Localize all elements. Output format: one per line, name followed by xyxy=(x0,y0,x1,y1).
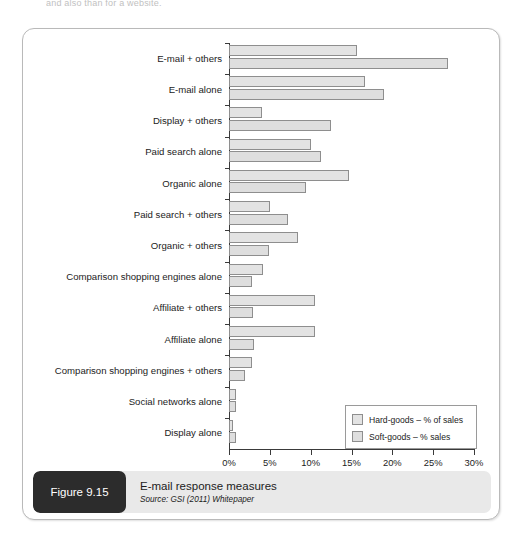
y-axis-tick xyxy=(225,74,230,75)
category-label: Display alone xyxy=(0,428,222,438)
bar xyxy=(229,339,254,350)
bar xyxy=(229,182,306,193)
category-label: E-mail + others xyxy=(0,54,222,64)
x-axis-tick xyxy=(311,449,312,455)
y-axis-tick xyxy=(225,293,230,294)
bar xyxy=(229,170,349,181)
category-label: Paid search + others xyxy=(0,210,222,220)
bar-group: Display + others xyxy=(229,105,474,136)
figure-page: and also than for a website. E-mail + ot… xyxy=(0,0,524,546)
figure-caption: Figure 9.15 E-mail response measures Sou… xyxy=(33,471,491,513)
category-label: Affiliate + others xyxy=(0,303,222,313)
bar xyxy=(229,295,315,306)
bar-group: Organic alone xyxy=(229,168,474,199)
bar xyxy=(229,58,448,69)
x-axis-tick xyxy=(474,449,475,455)
bar xyxy=(229,214,288,225)
legend-label-soft-goods: Soft-goods – % sales xyxy=(369,432,450,442)
bar-group: E-mail + others xyxy=(229,43,474,74)
y-axis-tick xyxy=(225,43,230,44)
caption-body: E-mail response measures Source: GSI (20… xyxy=(126,471,491,513)
bar xyxy=(229,432,236,443)
bar xyxy=(229,370,245,381)
category-label: Organic alone xyxy=(0,179,222,189)
category-label: Affiliate alone xyxy=(0,335,222,345)
bar xyxy=(229,264,263,275)
caption-source: Source: GSI (2011) Whitepaper xyxy=(140,495,491,504)
legend-swatch-soft-goods xyxy=(352,431,363,442)
bar-group: Paid search + others xyxy=(229,199,474,230)
category-label: Social networks alone xyxy=(0,397,222,407)
x-axis-tick xyxy=(392,449,393,455)
bar xyxy=(229,120,331,131)
legend-swatch-hard-goods xyxy=(352,414,363,425)
bar xyxy=(229,245,269,256)
legend-item-hard-goods: Hard-goods – % of sales xyxy=(352,411,470,428)
bar-group: Paid search alone xyxy=(229,137,474,168)
legend-item-soft-goods: Soft-goods – % sales xyxy=(352,428,470,445)
bar-group: Organic + others xyxy=(229,230,474,261)
y-axis-tick xyxy=(225,262,230,263)
bar-chart: E-mail + othersE-mail aloneDisplay + oth… xyxy=(23,29,501,459)
x-axis-tick-label: 5% xyxy=(263,457,277,468)
category-label: Display + others xyxy=(0,116,222,126)
x-axis-tick xyxy=(352,449,353,455)
category-label: Organic + others xyxy=(0,241,222,251)
category-label: Paid search alone xyxy=(0,147,222,157)
y-axis-tick xyxy=(225,387,230,388)
y-axis-tick xyxy=(225,230,230,231)
y-axis-tick xyxy=(225,418,230,419)
x-axis-tick-label: 25% xyxy=(424,457,443,468)
bar-group: Affiliate + others xyxy=(229,293,474,324)
y-axis-tick xyxy=(225,355,230,356)
bar xyxy=(229,307,253,318)
x-axis-tick xyxy=(229,449,230,455)
x-axis-tick-label: 20% xyxy=(383,457,402,468)
bar xyxy=(229,326,315,337)
category-label: E-mail alone xyxy=(0,85,222,95)
page-body-text: and also than for a website. xyxy=(46,0,266,10)
bar xyxy=(229,76,365,87)
bar-group: E-mail alone xyxy=(229,74,474,105)
figure-number-badge: Figure 9.15 xyxy=(33,471,126,513)
bar xyxy=(229,45,357,56)
bar xyxy=(229,89,384,100)
x-axis-tick-label: 0% xyxy=(222,457,236,468)
bar xyxy=(229,276,252,287)
legend-label-hard-goods: Hard-goods – % of sales xyxy=(369,415,463,425)
y-axis-tick xyxy=(225,199,230,200)
x-axis-tick-label: 10% xyxy=(301,457,320,468)
bar-group: Comparison shopping engines + others xyxy=(229,355,474,386)
category-label: Comparison shopping engines alone xyxy=(0,272,222,282)
caption-title: E-mail response measures xyxy=(140,479,491,493)
figure-frame: E-mail + othersE-mail aloneDisplay + oth… xyxy=(22,28,500,520)
bar-group: Comparison shopping engines alone xyxy=(229,262,474,293)
bar xyxy=(229,357,252,368)
y-axis-tick xyxy=(225,105,230,106)
x-axis-tick-label: 30% xyxy=(465,457,484,468)
category-label: Comparison shopping engines + others xyxy=(0,366,222,376)
x-axis-tick xyxy=(433,449,434,455)
x-axis-tick-label: 15% xyxy=(342,457,361,468)
plot-area: E-mail + othersE-mail aloneDisplay + oth… xyxy=(229,43,474,449)
bar xyxy=(229,139,311,150)
bar xyxy=(229,401,236,412)
chart-legend: Hard-goods – % of sales Soft-goods – % s… xyxy=(345,405,477,449)
bar xyxy=(229,389,236,400)
y-axis-tick xyxy=(225,137,230,138)
y-axis-tick xyxy=(225,324,230,325)
bar xyxy=(229,201,270,212)
bar xyxy=(229,151,321,162)
y-axis-tick xyxy=(225,168,230,169)
bar-group: Affiliate alone xyxy=(229,324,474,355)
x-axis-tick xyxy=(270,449,271,455)
bar xyxy=(229,420,233,431)
bar xyxy=(229,232,298,243)
bar xyxy=(229,107,262,118)
